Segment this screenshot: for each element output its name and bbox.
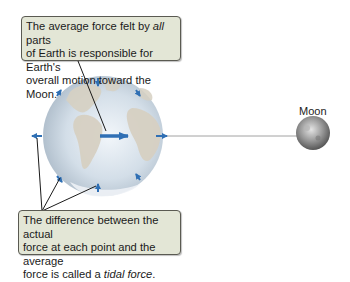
- callout-emphasis: tidal force: [104, 268, 153, 280]
- leader-line-tidal-left: [37, 138, 42, 211]
- average-force-callout: The average force felt by all parts of E…: [21, 16, 181, 61]
- callout-text: .: [152, 268, 155, 280]
- leader-line-tidal-lower-left: [42, 178, 60, 211]
- tidal-force-callout: The difference between the actual force …: [18, 210, 181, 255]
- callout-text: force is called a: [23, 268, 104, 280]
- callout-emphasis: all: [153, 20, 164, 32]
- moon-label: Moon: [299, 105, 327, 117]
- moon: [296, 116, 330, 150]
- callout-text: The average force felt by: [26, 20, 153, 32]
- leader-line-tidal-bottom: [42, 186, 96, 211]
- callout-text: parts: [26, 34, 51, 46]
- callout-text: The difference between the actual: [23, 214, 158, 240]
